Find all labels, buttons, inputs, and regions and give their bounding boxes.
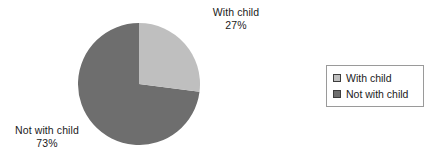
pie-chart-graphic [78,23,200,145]
data-label-with-child: With child 27% [196,6,276,32]
legend-item-not-with-child[interactable]: Not with child [333,86,418,102]
pie-slice-with-child[interactable] [139,23,200,92]
chart-legend: With child Not with child [326,65,424,107]
legend-swatch-not-with-child-icon [333,90,341,98]
data-label-with-child-percent: 27% [196,19,276,32]
legend-label-not-with-child: Not with child [346,88,408,100]
data-label-not-with-child: Not with child 73% [4,124,90,150]
data-label-not-with-child-percent: 73% [4,137,90,150]
pie-chart-figure: With child 27% Not with child 73% With c… [0,0,433,163]
legend-item-with-child[interactable]: With child [333,70,418,86]
data-label-not-with-child-name: Not with child [15,124,79,136]
pie-svg [78,23,200,145]
legend-swatch-with-child-icon [333,74,341,82]
data-label-with-child-name: With child [213,6,260,18]
legend-label-with-child: With child [346,72,392,84]
